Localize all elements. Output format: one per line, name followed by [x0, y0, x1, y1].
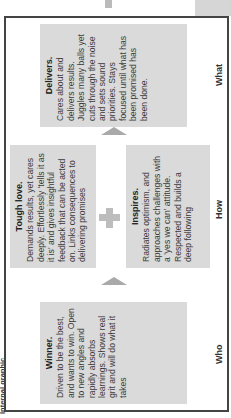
winner-title: Winner. [44, 308, 54, 398]
page-edge-shade [195, 0, 231, 16]
arrow-right-icon [101, 277, 127, 285]
inspires-title: Inspires. [130, 151, 140, 262]
what-label: What [214, 64, 224, 86]
who-label: Who [214, 345, 224, 365]
delivers-text: Cares about and delivers results. Juggle… [55, 34, 148, 121]
delivers-title: Delivers. [44, 30, 54, 121]
plus-icon-vertical [99, 214, 120, 221]
tough-love-title: Tough love. [14, 151, 24, 262]
delivers-box: Delivers. Cares about and delivers resul… [40, 24, 187, 127]
how-label: How [214, 200, 224, 219]
winner-text: Driven to be the best, and wants to win.… [55, 308, 127, 398]
tough-love-text: Demands results, yet cares deeply. Effor… [25, 153, 87, 262]
inspires-box: Inspires. Radiates optimism, and approac… [126, 145, 210, 268]
inspires-text: Radiates optimism, and approaches challe… [141, 156, 193, 262]
tough-love-box: Tough love. Demands results, yet cares d… [10, 145, 96, 268]
arrow-right-icon-2 [101, 127, 127, 135]
winner-box: Winner. Driven to be the best, and wants… [40, 302, 187, 404]
rotated-diagram: Internal graphic Winner. Driven to be th… [0, 0, 231, 418]
page-edge-mark [105, 0, 112, 8]
